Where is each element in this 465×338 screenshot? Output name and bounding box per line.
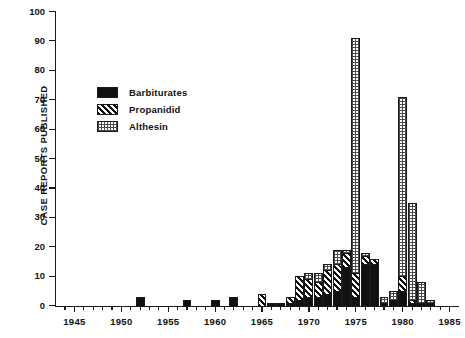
bar-segment — [267, 303, 276, 307]
legend-item-propanidid: Propanidid — [97, 101, 187, 118]
bar-segment — [211, 300, 220, 307]
bar-segment — [370, 264, 379, 306]
bar-segment — [417, 282, 426, 304]
bar-segment — [361, 253, 370, 257]
bar-segment — [426, 300, 435, 304]
bar-segment — [333, 264, 342, 291]
bar-segment — [342, 250, 351, 254]
legend-swatch-icon — [97, 87, 118, 98]
bar-segment — [314, 297, 323, 307]
bar-segment — [389, 300, 398, 307]
bar-segment — [361, 256, 370, 266]
bar-segment — [258, 294, 267, 307]
bar-segment — [333, 291, 342, 307]
bar-segment — [314, 273, 323, 283]
bar-segment — [351, 297, 360, 307]
bar-segment — [333, 250, 342, 266]
legend-item-althesin: Althesin — [97, 118, 187, 135]
bar-segment — [351, 38, 360, 274]
legend-label: Barbiturates — [129, 87, 187, 98]
bar-segment — [136, 297, 145, 307]
bar-segment — [380, 297, 389, 304]
bar-series-group — [0, 0, 465, 338]
bar-segment — [229, 297, 238, 307]
bar-segment — [304, 297, 313, 307]
bar-segment — [408, 203, 417, 301]
legend-item-barbiturates: Barbiturates — [97, 84, 187, 101]
bar-chart: CASE REPORTS PUBLISHED 01020304050607080… — [0, 0, 465, 338]
chart-legend: BarbituratesPropanididAlthesin — [97, 84, 187, 135]
bar-segment — [351, 273, 360, 298]
legend-swatch-icon — [97, 104, 118, 115]
legend-swatch-icon — [97, 121, 118, 132]
figure-caption — [0, 331, 465, 338]
bar-segment — [398, 276, 407, 292]
bar-segment — [323, 294, 332, 307]
bar-segment — [389, 291, 398, 301]
bar-segment — [304, 273, 313, 280]
bar-segment — [314, 282, 323, 298]
bar-segment — [398, 291, 407, 307]
legend-label: Althesin — [129, 121, 168, 132]
bar-segment — [276, 303, 285, 307]
bar-segment — [342, 267, 351, 306]
bar-segment — [295, 300, 304, 307]
bar-segment — [342, 253, 351, 269]
bar-segment — [286, 297, 295, 304]
bar-segment — [183, 300, 192, 307]
bar-segment — [370, 259, 379, 266]
bar-segment — [361, 264, 370, 306]
bar-segment — [323, 264, 332, 271]
bar-segment — [295, 276, 304, 301]
bar-segment — [304, 279, 313, 298]
legend-label: Propanidid — [129, 104, 181, 115]
bar-segment — [323, 270, 332, 295]
bar-segment — [398, 97, 407, 277]
